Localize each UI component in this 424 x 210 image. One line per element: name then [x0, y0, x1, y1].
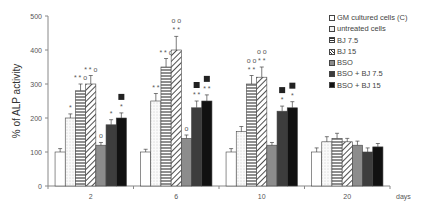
bar [151, 101, 161, 186]
legend-label: BSO + BJ 15 [337, 80, 381, 91]
bar [202, 101, 212, 186]
significance-marker: * * [152, 84, 160, 91]
legend-item: BJ 7.5 [329, 35, 407, 46]
significance-square-icon [118, 94, 124, 100]
x-tick-label: 6 [174, 193, 178, 200]
significance-marker: * [291, 92, 294, 99]
bar [236, 132, 246, 186]
bar [106, 125, 116, 186]
significance-marker: * * [173, 26, 181, 33]
legend-swatch-icon [329, 71, 335, 77]
significance-marker: * * [248, 66, 256, 73]
legend: GM cultured cells (C)untreated cellsBJ 7… [329, 12, 407, 91]
bar [322, 142, 332, 186]
significance-marker: * * [258, 57, 266, 64]
y-tick-label: 0 [38, 183, 42, 190]
legend-swatch-icon [329, 82, 335, 88]
bar [171, 50, 181, 186]
bar [181, 138, 191, 186]
significance-square-icon [279, 87, 285, 93]
bar [161, 67, 171, 186]
significance-marker: * * o [74, 74, 87, 81]
legend-swatch-icon [329, 37, 335, 43]
significance-marker: * [120, 103, 123, 110]
legend-item: untreated cells [329, 23, 407, 34]
y-tick-label: 500 [30, 13, 42, 20]
bar [257, 77, 267, 186]
bar [373, 147, 383, 186]
bar [287, 108, 297, 186]
bar [141, 152, 151, 186]
x-axis-label: days [396, 193, 411, 201]
legend-item: GM cultured cells (C) [329, 12, 407, 23]
bar [363, 152, 373, 186]
bar [342, 142, 352, 186]
bar [75, 91, 85, 186]
significance-square-icon [194, 82, 200, 88]
bar [352, 145, 362, 186]
legend-item: BSO + BJ 7.5 [329, 68, 407, 79]
bar [226, 152, 236, 186]
bar [65, 118, 75, 186]
legend-swatch-icon [329, 15, 335, 21]
significance-marker: * * [203, 85, 211, 92]
legend-label: BSO + BJ 7.5 [337, 68, 383, 79]
legend-item: BJ 15 [329, 46, 407, 57]
significance-marker: o o [171, 17, 181, 24]
bar [267, 145, 277, 186]
significance-marker: o o [247, 57, 257, 64]
y-axis-label: % of ALP activity [11, 64, 22, 138]
significance-square-icon [204, 76, 210, 82]
significance-marker: * * o [159, 49, 172, 56]
significance-marker: o [184, 125, 188, 132]
bar [96, 145, 106, 186]
legend-item: BSO + BJ 15 [329, 80, 407, 91]
bar [332, 138, 342, 186]
bar [277, 111, 287, 186]
bar [192, 108, 202, 186]
legend-label: GM cultured cells (C) [337, 12, 407, 23]
significance-marker: * * o [84, 66, 97, 73]
y-tick-label: 200 [30, 115, 42, 122]
x-tick-label: 20 [343, 193, 351, 200]
legend-label: BJ 15 [337, 46, 356, 57]
x-tick-label: 10 [258, 193, 266, 200]
x-tick-label: 2 [89, 193, 93, 200]
significance-marker: o [99, 132, 103, 139]
legend-item: BSO [329, 57, 407, 68]
significance-square-icon [289, 83, 295, 89]
bar [55, 152, 65, 186]
legend-label: BSO [337, 57, 353, 68]
legend-label: BJ 7.5 [337, 35, 358, 46]
bar [116, 118, 126, 186]
bar [246, 84, 256, 186]
legend-swatch-icon [329, 26, 335, 32]
legend-swatch-icon [329, 49, 335, 55]
y-tick-label: 100 [30, 149, 42, 156]
bar [312, 152, 322, 186]
y-tick-label: 400 [30, 47, 42, 54]
significance-marker: * [281, 96, 284, 103]
significance-marker: * * [193, 91, 201, 98]
chart-container: 0100200300400500% of ALP activity2** * o… [0, 0, 424, 210]
y-tick-label: 300 [30, 81, 42, 88]
significance-marker: * [69, 104, 72, 111]
legend-label: untreated cells [337, 23, 386, 34]
bar [86, 84, 96, 186]
significance-marker: o o [257, 48, 267, 55]
significance-marker: * [110, 110, 113, 117]
legend-swatch-icon [329, 60, 335, 66]
